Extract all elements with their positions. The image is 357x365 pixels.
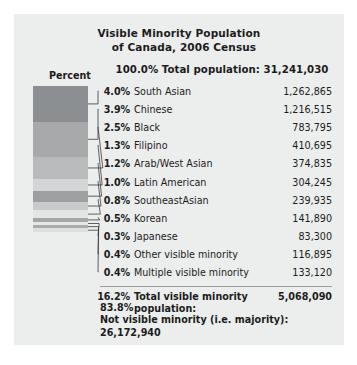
row-value: 141,890	[214, 213, 332, 224]
footer-label: Not visible minority (i.e. majority):	[100, 314, 332, 326]
row-value: 83,300	[214, 231, 332, 242]
table-row: 0.3%Japanese83,300	[14, 231, 344, 249]
footer-value: 26,172,940	[100, 327, 332, 339]
row-value: 374,835	[214, 158, 332, 169]
row-value: 410,695	[214, 140, 332, 151]
row-percent: 1.3%	[100, 140, 130, 151]
row-value: 304,245	[214, 177, 332, 188]
row-value: 239,935	[214, 195, 332, 206]
row-percent: 0.4%	[100, 267, 130, 278]
total-value: 5,068,090	[214, 291, 332, 302]
table-row: 0.4%Other visible minority116,895	[14, 249, 344, 267]
row-percent: 4.0%	[100, 86, 130, 97]
row-percent: 2.5%	[100, 122, 130, 133]
table-row: 3.9%Chinese1,216,515	[14, 104, 344, 122]
row-percent: 1.0%	[100, 177, 130, 188]
row-value: 1,216,515	[214, 104, 332, 115]
total-percent: 16.2%	[94, 291, 130, 302]
row-percent: 0.5%	[100, 213, 130, 224]
row-percent: 3.9%	[100, 104, 130, 115]
footer-percent: 83.8%	[100, 302, 332, 314]
total-divider	[100, 286, 332, 287]
row-value: 116,895	[214, 249, 332, 260]
table-row: 1.2%Arab/West Asian374,835	[14, 158, 344, 176]
footer-note: 83.8% Not visible minority (i.e. majorit…	[100, 302, 332, 339]
data-row-list: 4.0%South Asian1,262,8653.9%Chinese1,216…	[14, 14, 344, 345]
row-value: 1,262,865	[214, 86, 332, 97]
table-row: 0.4%Multiple visible minority133,120	[14, 267, 344, 285]
row-percent: 0.8%	[100, 195, 130, 206]
table-row: 1.0%Latin American304,245	[14, 177, 344, 195]
table-row: 4.0%South Asian1,262,865	[14, 86, 344, 104]
row-value: 133,120	[214, 267, 332, 278]
chart-card: Visible Minority Population of Canada, 2…	[14, 14, 344, 345]
row-percent: 0.3%	[100, 231, 130, 242]
table-row: 1.3%Filipino410,695	[14, 140, 344, 158]
row-percent: 0.4%	[100, 249, 130, 260]
row-value: 783,795	[214, 122, 332, 133]
table-row: 0.5%Korean141,890	[14, 213, 344, 231]
table-row: 0.8%SoutheastAsian239,935	[14, 195, 344, 213]
table-row: 2.5%Black783,795	[14, 122, 344, 140]
row-percent: 1.2%	[100, 158, 130, 169]
